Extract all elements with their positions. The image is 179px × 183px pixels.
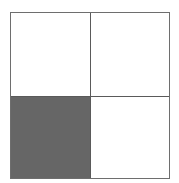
cell-top-left bbox=[11, 13, 91, 97]
cell-bottom-left-filled bbox=[11, 97, 91, 178]
cell-top-right bbox=[91, 13, 169, 97]
cell-bottom-right bbox=[91, 97, 169, 178]
two-by-two-grid bbox=[10, 12, 170, 179]
